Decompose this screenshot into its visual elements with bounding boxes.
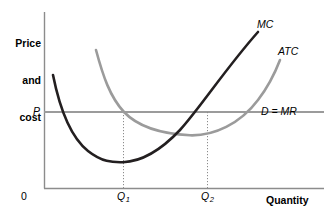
price-level-label: P <box>33 105 40 117</box>
mc-curve <box>53 32 258 162</box>
y-axis-title-line-1: Price <box>0 37 41 49</box>
q2-tick-subscript: 2 <box>210 195 214 204</box>
atc-curve-label: ATC <box>278 45 298 57</box>
q2-tick-base: Q <box>201 190 209 202</box>
origin-label: 0 <box>21 190 27 202</box>
q1-tick-label: Q1 <box>117 190 129 203</box>
y-axis-title: Price and cost <box>0 12 41 148</box>
demand-curve-label: D = MR <box>261 105 297 117</box>
mc-curve-label: MC <box>257 18 273 30</box>
economics-cost-curve-figure: Price and cost Quantity 0 P Q1 Q2 MC ATC… <box>0 0 324 222</box>
q1-tick-base: Q <box>117 190 125 202</box>
y-axis-title-line-2: and <box>0 74 41 86</box>
q1-tick-subscript: 1 <box>126 195 130 204</box>
q2-tick-label: Q2 <box>201 190 213 203</box>
x-axis-title: Quantity <box>266 194 309 206</box>
